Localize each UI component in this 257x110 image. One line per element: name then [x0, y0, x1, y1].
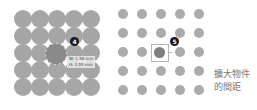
- grid-dot: [137, 47, 147, 57]
- grid-dot: [14, 27, 32, 45]
- grid-dot: [14, 44, 32, 62]
- grid-dot: [65, 78, 83, 96]
- spacing-indicator: [168, 52, 172, 53]
- grid-dot: [156, 85, 166, 95]
- grid-dot: [194, 28, 204, 38]
- grid-dot: [48, 10, 66, 28]
- grid-dot: [48, 78, 66, 96]
- step-badge-4: 4: [70, 37, 79, 46]
- grid-dot: [118, 47, 128, 57]
- grid-dot: [137, 85, 147, 95]
- grid-dot: [175, 85, 185, 95]
- grid-dot: [82, 78, 100, 96]
- selected-object[interactable]: [45, 43, 67, 65]
- caption: 擴大物件 的間距: [214, 68, 250, 94]
- grid-dot: [31, 78, 49, 96]
- grid-dot: [156, 66, 166, 76]
- grid-dot: [14, 78, 32, 96]
- grid-dot: [137, 9, 147, 19]
- grid-dot: [14, 10, 32, 28]
- grid-dot: [65, 10, 83, 28]
- grid-dot: [194, 66, 204, 76]
- grid-dot: [82, 27, 100, 45]
- size-readout: W: 1.58 mm H: 1.55 mm: [67, 56, 95, 68]
- grid-dot: [118, 9, 128, 19]
- caption-line-2: 的間距: [214, 81, 250, 94]
- caption-line-1: 擴大物件: [214, 68, 250, 81]
- grid-dot: [118, 66, 128, 76]
- grid-dot: [194, 9, 204, 19]
- height-readout: H: 1.55 mm: [69, 62, 93, 68]
- grid-dot: [175, 66, 185, 76]
- grid-dot: [14, 61, 32, 79]
- grid-dot: [31, 61, 49, 79]
- grid-dot: [137, 66, 147, 76]
- grid-dot: [82, 10, 100, 28]
- selected-object-small[interactable]: [154, 47, 165, 58]
- grid-dot: [194, 85, 204, 95]
- step-badge-5: 5: [170, 37, 179, 46]
- grid-dot: [31, 27, 49, 45]
- grid-dot: [156, 28, 166, 38]
- grid-dot: [175, 9, 185, 19]
- grid-dot: [31, 10, 49, 28]
- grid-dot: [194, 47, 204, 57]
- grid-dot: [118, 28, 128, 38]
- grid-dot: [175, 47, 185, 57]
- grid-dot: [118, 85, 128, 95]
- grid-dot: [156, 9, 166, 19]
- grid-dot: [137, 28, 147, 38]
